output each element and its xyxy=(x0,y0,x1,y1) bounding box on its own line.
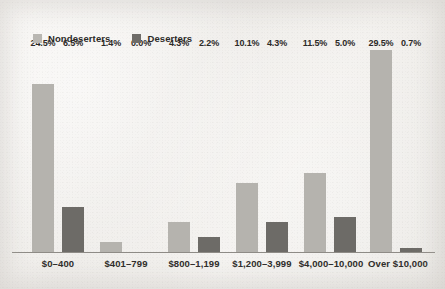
legend-label-nondeserters: Nondeserters xyxy=(48,33,110,44)
x-axis-tick-labels: $0–400 $401–799 $800–1,199 $1,200–3,999 … xyxy=(12,258,435,274)
legend-swatch-icon-deserters xyxy=(132,34,141,43)
bar-column-nondeserters: 24.5% xyxy=(32,50,54,252)
x-axis-label: $800–1,199 xyxy=(162,258,226,269)
bar-group: 24.5% 6.5% xyxy=(32,50,84,252)
bar-deserters xyxy=(334,217,356,252)
bar-group: 11.5% 5.0% xyxy=(304,50,356,252)
bar-column-deserters: 0.0% xyxy=(130,50,152,252)
bar-column-nondeserters: 29.5% xyxy=(370,50,392,252)
x-axis-label: $401–799 xyxy=(98,258,154,269)
x-axis-label: Over $10,000 xyxy=(364,258,432,269)
legend-item-deserters: Deserters xyxy=(132,33,192,44)
bar-column-deserters: 6.5% xyxy=(62,50,84,252)
bar-value-label: 10.1% xyxy=(234,38,259,48)
bar-deserters xyxy=(198,237,220,252)
legend-label-deserters: Deserters xyxy=(147,33,192,44)
bar-column-nondeserters: 10.1% xyxy=(236,50,258,252)
bar-deserters xyxy=(62,207,84,252)
legend-swatch-icon-nondeserters xyxy=(33,34,42,43)
bar-column-deserters: 4.3% xyxy=(266,50,288,252)
bar-group: 1.4% 0.0% xyxy=(100,50,152,252)
bar-nondeserters xyxy=(370,50,392,252)
bar-value-label: 4.3% xyxy=(267,38,287,48)
bar-group: 29.5% 0.7% xyxy=(370,50,422,252)
bar-column-deserters: 5.0% xyxy=(334,50,356,252)
bar-column-nondeserters: 11.5% xyxy=(304,50,326,252)
plot-area: 24.5% 6.5% 1.4% 0.0% 4.3% xyxy=(12,50,435,253)
bar-value-label: 5.0% xyxy=(335,38,355,48)
bar-value-label: 2.2% xyxy=(199,38,219,48)
bar-value-label: 29.5% xyxy=(368,38,393,48)
bar-chart-figure: Nondeserters Deserters 24.5% 6.5% 1.4% xyxy=(0,0,445,289)
bar-nondeserters xyxy=(100,242,122,252)
bar-nondeserters xyxy=(168,222,190,252)
legend-item-nondeserters: Nondeserters xyxy=(33,33,110,44)
bar-nondeserters xyxy=(32,84,54,252)
x-axis-label: $0–400 xyxy=(32,258,84,269)
bar-deserters xyxy=(266,222,288,252)
bar-nondeserters xyxy=(236,183,258,252)
bar-value-label: 0.7% xyxy=(401,38,421,48)
bar-column-nondeserters: 1.4% xyxy=(100,50,122,252)
bar-deserters xyxy=(400,248,422,252)
bar-column-deserters: 0.7% xyxy=(400,50,422,252)
chart-legend: Nondeserters Deserters xyxy=(33,33,192,44)
bar-value-label: 11.5% xyxy=(303,38,328,48)
bar-nondeserters xyxy=(304,173,326,252)
x-axis-label: $4,000–10,000 xyxy=(295,258,367,269)
bar-group: 4.3% 2.2% xyxy=(168,50,220,252)
bar-group: 10.1% 4.3% xyxy=(236,50,288,252)
bar-column-deserters: 2.2% xyxy=(198,50,220,252)
bar-column-nondeserters: 4.3% xyxy=(168,50,190,252)
x-axis-line xyxy=(12,252,435,253)
x-axis-label: $1,200–3,999 xyxy=(228,258,296,269)
